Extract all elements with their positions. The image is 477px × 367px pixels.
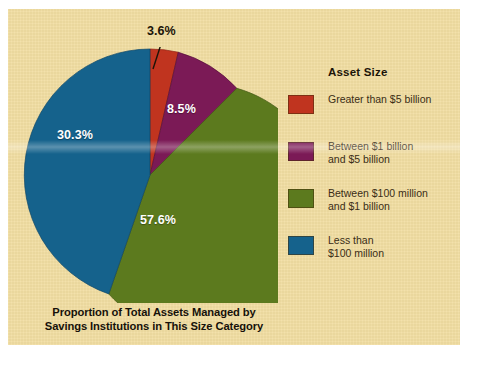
legend-item-less-than-100-million[interactable]: Less than $100 million xyxy=(288,236,460,278)
pie-label-57-6-percent: 57.6% xyxy=(140,213,176,227)
legend-swatch-100-million-to-1-billion xyxy=(288,189,314,208)
legend-item-100-million-to-1-billion[interactable]: Between $100 million and $1 billion xyxy=(288,189,460,231)
chart-caption-line-1: Proportion of Total Assets Managed by xyxy=(36,305,272,319)
pie-label-30-3-percent: 30.3% xyxy=(57,128,93,142)
legend-swatch-1-to-5-billion xyxy=(288,142,314,161)
chart-canvas: 8.5% 57.6% 30.3% 3.6% Asset Size Greater… xyxy=(0,0,477,367)
chart-caption-line-2: Savings Institutions in This Size Catego… xyxy=(36,319,272,333)
legend-label-100-million-to-1-billion: Between $100 million and $1 billion xyxy=(328,187,428,212)
pie-label-8-5-percent: 8.5% xyxy=(167,102,196,116)
pie-label-3-6-percent: 3.6% xyxy=(147,24,176,38)
legend-swatch-less-than-100-million xyxy=(288,236,314,255)
legend-item-1-to-5-billion[interactable]: Between $1 billion and $5 billion xyxy=(288,142,460,184)
callout-leader-line xyxy=(22,47,278,303)
legend-title: Asset Size xyxy=(328,66,388,78)
legend-item-greater-than-5-billion[interactable]: Greater than $5 billion xyxy=(288,95,460,137)
legend-label-greater-than-5-billion: Greater than $5 billion xyxy=(328,93,431,106)
legend-swatch-greater-than-5-billion xyxy=(288,95,314,114)
pie-chart: 8.5% 57.6% 30.3% xyxy=(22,47,278,303)
legend-label-less-than-100-million: Less than $100 million xyxy=(328,234,384,259)
chart-caption: Proportion of Total Assets Managed by Sa… xyxy=(36,305,272,333)
legend-label-1-to-5-billion: Between $1 billion and $5 billion xyxy=(328,140,413,165)
